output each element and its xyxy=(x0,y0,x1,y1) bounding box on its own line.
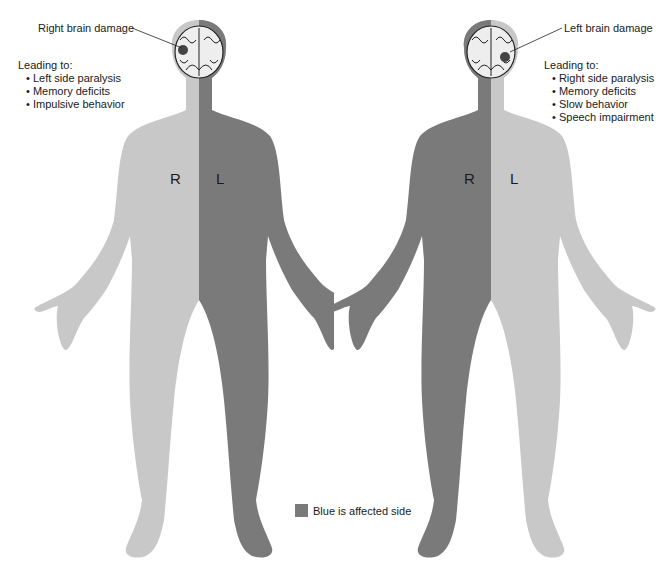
title-right-brain-damage: Right brain damage xyxy=(38,22,134,34)
leader-line xyxy=(510,28,562,52)
effect-item: Memory deficits xyxy=(552,85,654,98)
side-letter-l: L xyxy=(216,170,224,187)
figure-right-brain-damage: Right brain damage Leading to: Left side… xyxy=(0,0,334,576)
effect-item: Right side paralysis xyxy=(552,72,654,85)
figure-left-brain-damage: Left brain damage Leading to: Right side… xyxy=(294,0,668,576)
effects-heading: Leading to: xyxy=(544,59,654,72)
effect-item: Impulsive behavior xyxy=(26,98,125,111)
legend: Blue is affected side xyxy=(295,504,411,517)
side-letter-r: R xyxy=(464,170,475,187)
effect-item: Left side paralysis xyxy=(26,72,125,85)
side-letter-l: L xyxy=(510,170,518,187)
legend-label: Blue is affected side xyxy=(313,505,411,517)
effect-item: Speech impairment xyxy=(552,111,654,124)
brain-cross-section xyxy=(172,20,226,78)
lesion-marker xyxy=(178,45,188,55)
side-letter-r: R xyxy=(170,170,181,187)
effects-heading: Leading to: xyxy=(18,59,125,72)
effects-list-right: Leading to: Right side paralysis Memory … xyxy=(544,59,654,124)
title-left-brain-damage: Left brain damage xyxy=(564,22,653,34)
brain-cross-section xyxy=(464,20,518,78)
effects-list-left: Leading to: Left side paralysis Memory d… xyxy=(18,59,125,111)
effect-item: Memory deficits xyxy=(26,85,125,98)
lesion-marker xyxy=(500,52,510,62)
legend-swatch-icon xyxy=(295,504,308,517)
effect-item: Slow behavior xyxy=(552,98,654,111)
